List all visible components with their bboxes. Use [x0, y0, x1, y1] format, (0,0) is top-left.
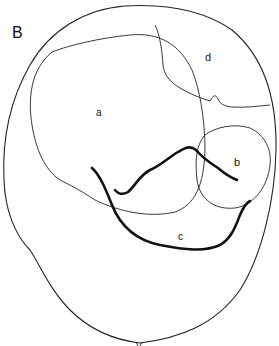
region-d-boundary	[155, 25, 270, 107]
panel-label: B	[12, 24, 23, 41]
region-label-d: d	[205, 51, 211, 63]
thick-curve-c[interactable]	[92, 168, 250, 250]
region-label-a: a	[96, 107, 102, 118]
thick-line-ab[interactable]	[115, 147, 237, 193]
region-label-b: b	[234, 156, 240, 168]
region-label-c: c	[178, 231, 183, 242]
outer-contour	[4, 6, 276, 343]
anatomical-outline-diagram: B a b c d	[0, 0, 279, 346]
region-a-contour	[30, 35, 205, 215]
